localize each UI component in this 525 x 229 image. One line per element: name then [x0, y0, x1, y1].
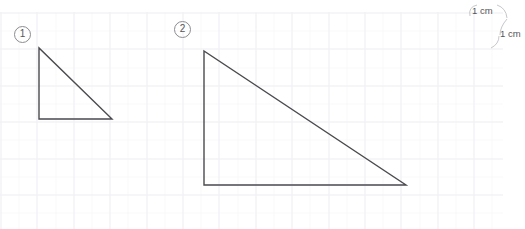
figures-layer — [0, 0, 525, 229]
triangle-figure-1 — [39, 48, 112, 119]
worksheet-page: 1 2 1 cm 1 cm — [0, 0, 525, 229]
scale-brace-top-right-icon — [497, 5, 507, 18]
figure-label-2: 2 — [174, 21, 191, 38]
figure-label-1: 1 — [14, 26, 31, 43]
scale-label-vertical: 1 cm — [500, 28, 521, 39]
scale-brace-bottom-right-icon — [491, 36, 499, 48]
triangle-figure-2 — [204, 51, 406, 185]
scale-label-horizontal: 1 cm — [472, 5, 493, 16]
